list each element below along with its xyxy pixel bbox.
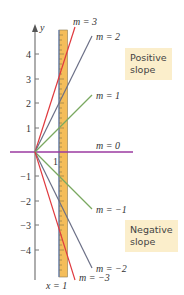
label-m-neg1: m = −1 [96,204,127,215]
tick-neg3: −3 [20,220,31,231]
ruler [59,30,68,277]
positive-slope-line1: Positive [130,52,167,64]
tick-3: 3 [26,74,31,85]
negative-slope-line2: slope [130,236,173,248]
label-m1: m = 1 [96,90,120,101]
negative-slope-box: Negative slope [125,220,178,252]
tick-neg1: −1 [20,171,31,182]
label-x-eq-1: x = 1 [45,280,67,291]
line-m3 [35,27,75,152]
tick-2: 2 [26,98,31,109]
label-m-neg3: m = −3 [79,272,110,283]
x-tick-1: 1 [53,156,58,167]
tick-1: 1 [26,123,31,134]
negative-slope-line1: Negative [130,224,173,236]
y-axis-label: y [39,22,45,33]
positive-slope-box: Positive slope [125,48,172,80]
positive-slope-line2: slope [130,64,167,76]
tick-neg4: −4 [20,245,31,256]
label-m3: m = 3 [73,16,97,27]
axis-arrow-icon [32,24,38,32]
label-m2: m = 2 [96,31,120,42]
tick-4: 4 [26,49,31,60]
tick-neg2: −2 [20,196,31,207]
label-m0: m = 0 [96,140,120,151]
